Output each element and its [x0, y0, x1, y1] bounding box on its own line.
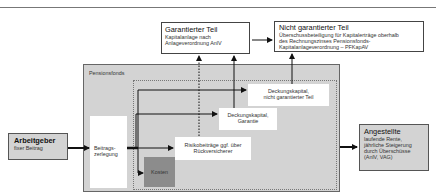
connector-arrows [0, 0, 436, 194]
